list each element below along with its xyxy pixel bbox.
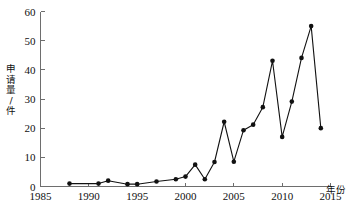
patent-application-line-chart: 0102030405060 19851990199520002005201020… xyxy=(0,0,363,220)
data-point-2002 xyxy=(203,177,208,182)
y-tick-label-30: 30 xyxy=(25,93,37,105)
y-axis-title-char: 件 xyxy=(6,105,16,116)
data-point-2000 xyxy=(183,174,188,179)
series-markers xyxy=(67,24,323,187)
x-tick-label-1990: 1990 xyxy=(78,190,101,202)
y-axis xyxy=(41,12,45,187)
y-tick-label-40: 40 xyxy=(25,64,37,76)
y-axis-title-char: 申 xyxy=(6,63,16,74)
y-axis-title-char: 请 xyxy=(6,74,16,85)
y-tick-label-50: 50 xyxy=(25,35,37,47)
x-tick-label-1985: 1985 xyxy=(30,190,53,202)
x-tick-label-1995: 1995 xyxy=(126,190,149,202)
data-point-2010 xyxy=(280,135,285,140)
data-point-2008 xyxy=(261,105,266,110)
data-point-2013 xyxy=(309,24,314,29)
chart-plot-area: 0102030405060 19851990199520002005201020… xyxy=(0,0,363,220)
x-axis-title: 年份 xyxy=(326,184,346,195)
y-tick-label-20: 20 xyxy=(25,122,37,134)
y-tick-label-60: 60 xyxy=(25,6,37,18)
data-point-1995 xyxy=(135,182,140,187)
series-line-application-count xyxy=(70,26,321,184)
data-point-2014 xyxy=(319,126,324,131)
data-point-1999 xyxy=(174,177,179,182)
data-point-2005 xyxy=(232,159,237,164)
data-point-2012 xyxy=(299,56,304,61)
data-point-2001 xyxy=(193,162,198,167)
data-point-1988 xyxy=(67,181,72,186)
y-axis-title-char: 量 xyxy=(6,84,16,95)
y-axis-tick-labels: 0102030405060 xyxy=(25,6,37,193)
data-point-2006 xyxy=(241,128,246,133)
x-tick-label-2005: 2005 xyxy=(223,190,246,202)
x-tick-label-2000: 2000 xyxy=(175,190,198,202)
data-point-2003 xyxy=(212,160,217,165)
y-tick-label-10: 10 xyxy=(25,151,37,163)
data-point-1992 xyxy=(106,178,111,183)
data-point-2011 xyxy=(290,99,295,104)
data-point-1991 xyxy=(96,181,101,186)
y-axis-title-char: / xyxy=(9,95,13,106)
data-point-2009 xyxy=(270,58,275,63)
x-tick-label-2010: 2010 xyxy=(271,190,294,202)
data-point-2004 xyxy=(222,119,227,124)
y-axis-title: 申请量/件 xyxy=(6,63,16,116)
data-point-2007 xyxy=(251,122,256,127)
data-point-1997 xyxy=(154,179,159,184)
x-axis-tick-labels: 1985199019952000200520102015 xyxy=(30,190,343,202)
data-point-1994 xyxy=(125,182,130,187)
